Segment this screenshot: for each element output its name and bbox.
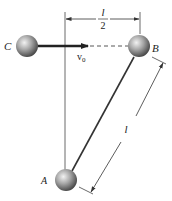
rod-ab [72,57,134,171]
ball-a-label: A [40,175,48,186]
rod-length-label: l [124,123,127,135]
velocity-label: v0 [77,51,86,64]
rod-length-dimension-lower [91,142,121,192]
rod-length-tick-bottom [79,187,93,194]
rod-length-tick-top [152,57,166,64]
mechanics-diagram: l 2 v0 l C B A [0,0,172,201]
ball-a [55,169,77,191]
half-length-denominator: 2 [101,20,106,31]
rod-length-dimension-upper [136,63,163,116]
ball-b [128,35,150,57]
ball-c-label: C [4,40,12,52]
diagram-canvas: l 2 v0 l C B A [0,0,172,201]
half-length-numerator: l [101,6,104,18]
ball-b-label: B [152,42,159,54]
ball-c [16,35,38,57]
